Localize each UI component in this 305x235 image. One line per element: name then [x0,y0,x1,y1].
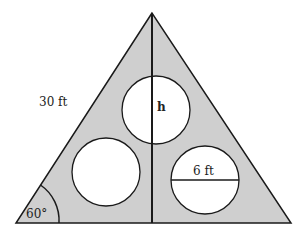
triangle-diagram: 30 ft h 6 ft 60° [0,0,305,235]
side-label: 30 ft [39,95,68,109]
angle-label: 60° [26,207,47,221]
diameter-label: 6 ft [193,164,214,178]
circle-left [72,138,140,206]
circle-top [122,76,190,144]
height-label: h [157,100,166,114]
